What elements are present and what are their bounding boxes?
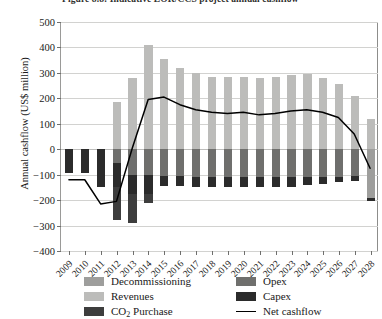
legend-label: Net cashflow — [263, 306, 321, 317]
x-tick-2021 — [260, 251, 261, 255]
x-tick-2011 — [101, 251, 102, 255]
y-tick-label-300: 300 — [15, 67, 55, 78]
figure-caption: Figure 8.8: Indicative EOR/CCS project a… — [62, 0, 372, 5]
x-tick-2022 — [276, 251, 277, 255]
y-tick-label--300: −300 — [15, 220, 55, 231]
x-tick-2018 — [212, 251, 213, 255]
x-tick-2019 — [228, 251, 229, 255]
legend-item-opex[interactable]: Opex — [236, 275, 287, 288]
gridline--400 — [61, 251, 378, 252]
y-tick-label-0: 0 — [15, 144, 55, 155]
y-tick-label-200: 200 — [15, 93, 55, 104]
legend-swatch — [84, 307, 104, 316]
x-tick-2024 — [307, 251, 308, 255]
legend-item-decommissioning[interactable]: Decommissioning — [84, 275, 191, 288]
y-tick-label-100: 100 — [15, 118, 55, 129]
chart-legend: DecommissioningRevenuesCO2 PurchaseOpexC… — [84, 275, 374, 319]
legend-label: Decommissioning — [111, 276, 191, 287]
legend-label: Capex — [263, 291, 291, 302]
net-cashflow-line — [61, 22, 378, 251]
x-tick-2023 — [292, 251, 293, 255]
x-tick-2027 — [355, 251, 356, 255]
legend-label: Revenues — [111, 291, 154, 302]
legend-item-co2-purchase[interactable]: CO2 Purchase — [84, 305, 173, 318]
plot-area: 5004003002001000−100−200−300−400 2009201… — [60, 22, 378, 251]
x-tick-2020 — [244, 251, 245, 255]
legend-item-revenues[interactable]: Revenues — [84, 290, 154, 303]
y-tick--400 — [57, 251, 61, 252]
y-tick-label--400: −400 — [15, 246, 55, 257]
y-tick-label-400: 400 — [15, 42, 55, 53]
legend-label: CO2 Purchase — [111, 306, 173, 317]
x-tick-2010 — [85, 251, 86, 255]
y-tick-label--100: −100 — [15, 169, 55, 180]
x-tick-2016 — [180, 251, 181, 255]
x-tick-2025 — [323, 251, 324, 255]
x-tick-2013 — [133, 251, 134, 255]
x-tick-2017 — [196, 251, 197, 255]
y-tick-label-500: 500 — [15, 17, 55, 28]
legend-swatch — [236, 277, 256, 286]
x-tick-2026 — [339, 251, 340, 255]
legend-swatch — [84, 292, 104, 301]
legend-swatch — [236, 292, 256, 301]
x-tick-2012 — [117, 251, 118, 255]
y-tick-label--200: −200 — [15, 195, 55, 206]
legend-label: Opex — [263, 276, 287, 287]
x-tick-2009 — [69, 251, 70, 255]
x-tick-2014 — [148, 251, 149, 255]
legend-swatch — [84, 277, 104, 286]
legend-item-capex[interactable]: Capex — [236, 290, 291, 303]
legend-item-net-cashflow[interactable]: Net cashflow — [236, 305, 321, 318]
x-tick-2028 — [371, 251, 372, 255]
x-tick-2015 — [164, 251, 165, 255]
figure-root: Figure 8.8: Indicative EOR/CCS project a… — [0, 0, 382, 319]
legend-line-marker — [236, 311, 256, 312]
net-cashflow-polyline — [69, 97, 370, 204]
